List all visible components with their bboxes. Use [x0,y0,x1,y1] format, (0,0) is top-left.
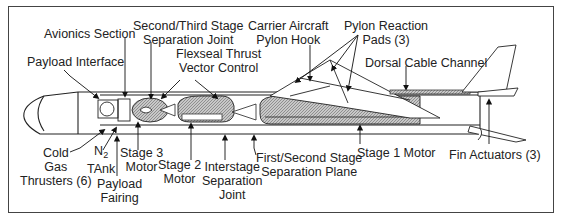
label-flexseal-thrust-vector-control: Flexseal Thrust Vector Control [176,47,261,75]
label-pylon-reaction-pads: Pylon Reaction Pads (3) [344,19,428,47]
dorsal-cable-channel [390,90,470,94]
label-cold-gas-thrusters: Cold Gas Thrusters (6) [20,146,92,188]
label-avionics-section: Avionics Section [44,27,136,41]
label-second-third-stage-separation-joint: Second/Third Stage Separation Joint [133,19,244,47]
label-dorsal-cable-channel: Dorsal Cable Channel [365,56,487,70]
label-stage-2-motor: Stage 2 Motor [158,158,201,186]
label-n2-tank: N2 TAnk [87,144,115,176]
label-first-second-stage-separation-plane: First/Second Stage Separation Plane [256,151,362,179]
label-carrier-aircraft-pylon-hook: Carrier Aircraft Pylon Hook [248,19,329,47]
label-stage-3-motor: Stage 3 Motor [120,146,163,174]
label-interstage-separation-joint: Interstage Separation Joint [202,160,262,202]
label-payload-interface: Payload Interface [27,55,124,69]
label-payload-fairing: Payload Fairing [97,177,142,205]
label-fin-actuators: Fin Actuators (3) [449,148,541,162]
label-stage-1-motor: Stage 1 Motor [357,146,436,160]
